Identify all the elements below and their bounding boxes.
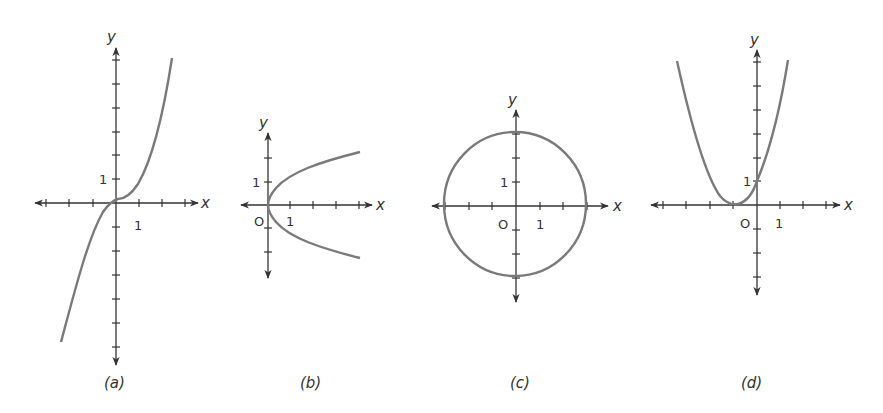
y-axis-label: y [507, 91, 518, 109]
y-tick-label: 1 [99, 172, 107, 187]
panel-d: y x 1 1 O (d) [651, 31, 853, 392]
y-tick-label: 1 [252, 175, 260, 190]
x-tick-label: 1 [286, 214, 294, 229]
y-axis-label: y [749, 31, 760, 49]
panel-b: y x 1 1 O (b) [241, 114, 385, 392]
parabola-curve [677, 60, 788, 204]
y-axis-label: y [258, 114, 269, 132]
caption-a: (a) [104, 374, 125, 392]
x-axis-label: x [375, 196, 385, 214]
caption-d: (d) [741, 374, 762, 392]
origin-label: O [254, 214, 264, 229]
x-tick-label: 1 [536, 217, 544, 232]
panel-c: y x 1 1 O (c) [432, 91, 622, 392]
x-axis-label: x [200, 194, 210, 212]
x-tick-label: 1 [775, 216, 783, 231]
x-axis-label: x [612, 197, 622, 215]
y-axis-label: y [106, 28, 117, 46]
x-axis-label: x [843, 196, 853, 214]
caption-b: (b) [300, 374, 321, 392]
y-tick-label: 1 [500, 175, 508, 190]
caption-c: (c) [510, 374, 530, 392]
panel-a: y x 1 1 (a) [35, 28, 210, 392]
figure-four-graphs: y x 1 1 (a) y x 1 1 O (b) [0, 0, 883, 413]
origin-label: O [740, 216, 750, 231]
y-tick-label: 1 [743, 174, 751, 189]
origin-label: O [498, 217, 508, 232]
x-tick-label: 1 [134, 218, 142, 233]
